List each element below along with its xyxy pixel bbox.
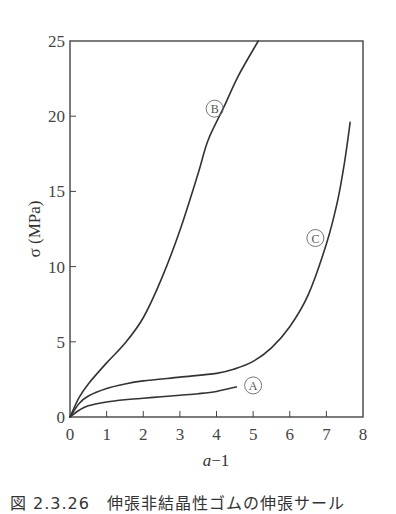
x-tick-label: 3 [176,425,185,444]
figure-caption: 図 2.3.26 伸張非結晶性ゴムの伸張サール [10,490,345,514]
y-tick-label: 20 [48,107,65,126]
y-tick-label: 5 [57,333,66,352]
x-axis-title: a−1 [203,451,230,470]
plot-frame [70,41,363,417]
x-tick-label: 0 [66,425,75,444]
x-axis-title-rest: −1 [211,451,229,470]
y-tick-label: 25 [48,32,65,51]
label-letter: C [311,232,319,246]
x-tick-label: 8 [359,425,368,444]
curve-c [70,122,350,417]
curve-b [70,41,258,417]
y-axis-ticks: 0510152025 [48,32,76,427]
x-tick-label: 4 [212,425,221,444]
x-tick-label: 5 [249,425,258,444]
curve-label-c: C [307,230,324,247]
curve-labels: ABC [206,100,324,394]
x-tick-label: 6 [286,425,295,444]
x-tick-label: 7 [322,425,331,444]
y-tick-label: 15 [48,182,65,201]
curves [70,41,350,417]
x-tick-label: 1 [102,425,111,444]
y-tick-label: 0 [57,408,66,427]
curve-a [70,387,236,417]
x-axis-title-var: a [203,451,212,470]
y-axis-title: σ (MPa) [25,201,44,258]
x-axis-ticks: 012345678 [66,411,368,444]
label-letter: B [211,102,219,116]
curve-label-b: B [206,100,223,117]
curve-label-a: A [245,377,262,394]
x-tick-label: 2 [139,425,148,444]
label-letter: A [249,379,258,393]
y-tick-label: 10 [48,258,65,277]
